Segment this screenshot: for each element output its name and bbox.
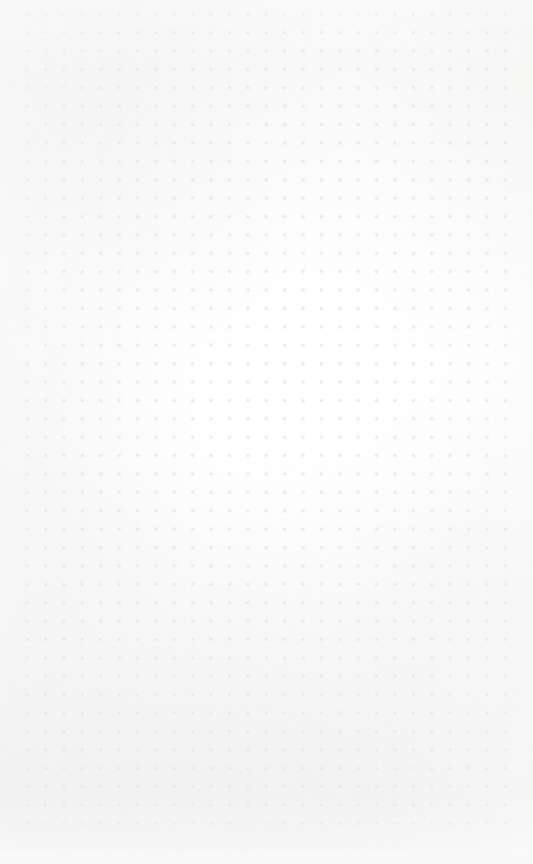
dot-grid xyxy=(0,0,533,864)
dot-grid-dot-layer xyxy=(18,5,516,835)
dot-grid-page xyxy=(0,0,533,864)
page-bottom-edge xyxy=(0,844,533,864)
